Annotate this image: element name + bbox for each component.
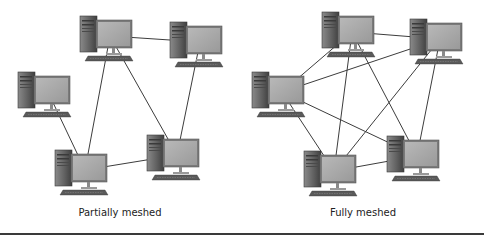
desktop-computer-icon-partial-D bbox=[55, 150, 108, 195]
links-layer bbox=[48, 32, 440, 171]
desktop-computer-icon-full-D bbox=[304, 151, 357, 196]
desktop-computer-icon-partial-B bbox=[170, 22, 223, 67]
desktop-computer-icon-partial-C bbox=[18, 72, 71, 117]
bottom-rule bbox=[0, 233, 484, 235]
desktop-computer-icon-partial-A bbox=[80, 16, 133, 61]
desktop-computer-icon-full-C bbox=[252, 72, 305, 117]
desktop-computer-icon-partial-E bbox=[147, 135, 200, 180]
caption-fully-meshed: Fully meshed bbox=[283, 207, 443, 218]
network-topology-diagram bbox=[0, 0, 484, 241]
link-partial-B-E bbox=[177, 42, 200, 155]
nodes-layer bbox=[18, 12, 463, 196]
desktop-computer-icon-full-B bbox=[410, 19, 463, 64]
desktop-computer-icon-full-E bbox=[387, 136, 440, 181]
caption-partially-meshed: Partially meshed bbox=[40, 207, 200, 218]
